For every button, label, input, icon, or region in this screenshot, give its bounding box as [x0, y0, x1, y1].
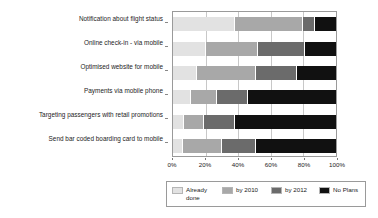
- category-axis-labels: Notification about flight status Online …: [0, 11, 168, 157]
- bar-row: [173, 42, 336, 56]
- plot-area: [172, 11, 337, 157]
- bar-segment: [197, 66, 256, 80]
- bar-row: [173, 90, 336, 104]
- category-label: Online check-in - via mobile: [0, 39, 163, 47]
- bar-segment: [222, 139, 256, 153]
- legend-swatch-already-done: [172, 187, 183, 194]
- category-label: Send bar coded boarding card to mobile: [0, 135, 163, 143]
- legend-item: No Plans: [319, 186, 358, 194]
- x-axis-tick-label: 80%: [298, 161, 310, 169]
- legend: Already done by 2010 by 2012 No Plans: [166, 181, 366, 207]
- bar-segment: [256, 66, 297, 80]
- bar-segment: [297, 66, 336, 80]
- x-axis-tick-label: 100%: [329, 161, 345, 169]
- bar-segment: [315, 17, 336, 31]
- category-tick: [165, 22, 168, 23]
- category-tick: [165, 142, 168, 143]
- bar-row: [173, 17, 336, 31]
- x-axis-tick-label: 40%: [232, 161, 244, 169]
- category-label: Optimised website for mobile: [0, 63, 163, 71]
- x-axis-tick: [172, 158, 173, 160]
- category-label: Payments via mobile phone: [0, 87, 163, 95]
- bar-segment: [248, 90, 336, 104]
- legend-label: No Plans: [333, 186, 358, 194]
- x-axis-tick-label: 60%: [265, 161, 277, 169]
- bar-segment: [303, 17, 314, 31]
- bar-segment: [173, 17, 235, 31]
- category-label: Notification about flight status: [0, 15, 163, 23]
- bar-series-container: [173, 12, 336, 156]
- legend-label: Already done: [186, 186, 216, 201]
- bar-segment: [184, 115, 204, 129]
- legend-label: by 2010: [236, 186, 258, 194]
- bar-segment: [235, 17, 303, 31]
- bar-segment: [204, 115, 235, 129]
- bar-segment: [217, 90, 248, 104]
- bar-segment: [173, 66, 197, 80]
- legend-swatch-by-2010: [222, 187, 233, 194]
- bar-segment: [173, 90, 191, 104]
- stacked-bar-chart: Notification about flight status Online …: [0, 0, 378, 218]
- bar-row: [173, 66, 336, 80]
- category-tick: [165, 118, 168, 119]
- bar-segment: [256, 139, 336, 153]
- legend-item: Already done: [172, 186, 216, 201]
- x-axis-tick: [238, 158, 239, 160]
- x-axis-tick-label: 0%: [168, 161, 177, 169]
- bar-segment: [173, 115, 184, 129]
- legend-item: by 2012: [271, 186, 307, 194]
- x-axis-tick: [337, 158, 338, 160]
- bar-segment: [258, 42, 305, 56]
- x-axis-tick-label: 20%: [199, 161, 211, 169]
- bar-segment: [173, 139, 183, 153]
- x-axis-tick: [271, 158, 272, 160]
- legend-swatch-by-2012: [271, 187, 282, 194]
- bar-row: [173, 115, 336, 129]
- legend-item: by 2010: [222, 186, 258, 194]
- x-axis: 0%20%40%60%80%100%: [172, 158, 337, 170]
- category-tick: [165, 94, 168, 95]
- bar-segment: [305, 42, 336, 56]
- bar-segment: [191, 90, 217, 104]
- category-tick: [165, 46, 168, 47]
- x-axis-tick: [304, 158, 305, 160]
- legend-swatch-no-plans: [319, 187, 330, 194]
- bar-segment: [235, 115, 336, 129]
- category-tick: [165, 70, 168, 71]
- legend-label: by 2012: [285, 186, 307, 194]
- bar-segment: [206, 42, 258, 56]
- category-label: Targeting passengers with retail promoti…: [0, 111, 163, 119]
- x-axis-tick: [205, 158, 206, 160]
- bar-row: [173, 139, 336, 153]
- bar-segment: [183, 139, 222, 153]
- bar-segment: [173, 42, 206, 56]
